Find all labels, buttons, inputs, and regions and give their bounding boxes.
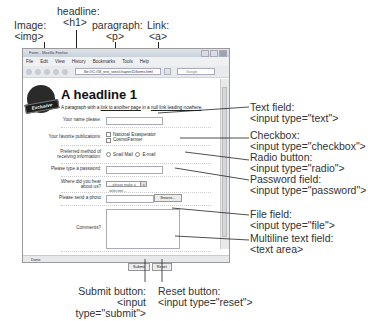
leader-lines — [0, 0, 368, 321]
callout-reset: Reset button: <input type="reset"> — [158, 286, 253, 308]
callout-tag: <input type="reset"> — [158, 297, 253, 308]
callout-tag: <input type="submit"> — [60, 297, 146, 319]
callout-submit: Submit button: <input type="submit"> — [60, 286, 146, 319]
